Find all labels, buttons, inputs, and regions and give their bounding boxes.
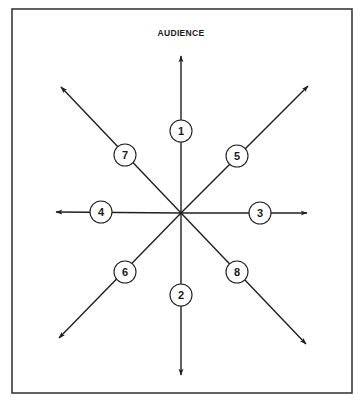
node-label: 6 [122, 266, 128, 278]
node-6: 6 [114, 261, 136, 283]
node-label: 5 [234, 150, 240, 162]
node-label: 4 [98, 206, 105, 218]
diagram-frame [12, 9, 352, 393]
node-8: 8 [226, 261, 248, 283]
node-label: 8 [234, 266, 240, 278]
node-2: 2 [170, 284, 192, 306]
audience-diagram: AUDIENCE 12345678 [0, 0, 362, 400]
arrow-left [56, 212, 181, 213]
node-label: 7 [122, 149, 128, 161]
node-3: 3 [249, 202, 271, 224]
node-label: 1 [178, 125, 184, 137]
node-5: 5 [226, 145, 248, 167]
node-label: 3 [257, 207, 263, 219]
diagram-title: AUDIENCE [158, 28, 205, 38]
node-1: 1 [170, 120, 192, 142]
node-7: 7 [114, 144, 136, 166]
node-label: 2 [178, 289, 184, 301]
node-4: 4 [90, 201, 112, 223]
